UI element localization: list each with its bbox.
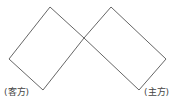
diagram-canvas: (客方) (主方) xyxy=(0,0,179,108)
guest-side-label: (客方) xyxy=(4,86,29,98)
left-rectangle xyxy=(9,7,84,90)
host-side-label: (主方) xyxy=(144,86,169,98)
right-rectangle xyxy=(84,7,166,90)
